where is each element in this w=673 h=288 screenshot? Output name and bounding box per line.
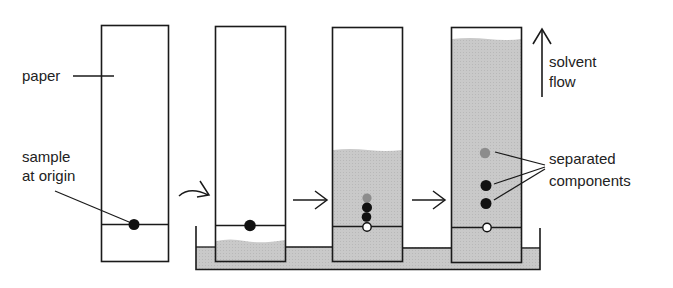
sample-spot [244,220,256,232]
sample-spot [129,219,140,230]
solvent-flow-label-line1: solvent [549,52,597,71]
curved-arrow-icon [179,181,209,197]
sample-label-line2: at origin [22,166,75,185]
paper-strip-1 [102,26,169,262]
black-component-spot [362,212,372,222]
sample-label-line1: sample [22,147,70,166]
diagram-canvas [0,0,673,288]
black-component-spot [481,198,492,209]
separated-components-label-line1: separated [549,149,616,168]
paper-strip-4 [452,28,522,264]
arrow-right-icon [412,191,445,209]
arrow-right-icon [293,191,327,209]
paper-strip-3 [333,28,403,263]
grey-component-spot [480,148,490,158]
empty-origin-spot [363,223,371,231]
paper-label: paper [22,66,60,85]
paper-strip-2 [216,27,286,263]
solvent-flow-label-line2: flow [549,72,576,91]
separated-components-label-line2: components [549,171,631,190]
empty-origin-spot [483,223,491,231]
chromatography-diagram: paper sample at origin solvent flow sepa… [0,0,673,288]
grey-component-spot [362,193,371,202]
black-component-spot [481,180,492,191]
black-component-spot [362,203,372,213]
